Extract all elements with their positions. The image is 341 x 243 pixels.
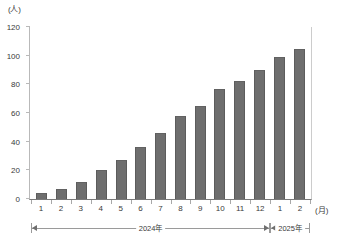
y-axis-tick-label: 100 (7, 51, 20, 60)
bar-cell (32, 27, 52, 199)
y-axis-tick-label: 60 (11, 109, 20, 118)
bar (155, 133, 166, 199)
x-axis-tick-label: 11 (230, 204, 250, 216)
bar (135, 147, 146, 199)
span-arrow-right-icon (264, 225, 269, 231)
y-axis-tick-label: 120 (7, 23, 20, 32)
x-axis-tick-label: 9 (190, 204, 210, 216)
x-axis-tick-label: 12 (250, 204, 270, 216)
x-axis-tick-label: 7 (151, 204, 171, 216)
bar (116, 160, 127, 199)
year-span: 2024年 (31, 222, 270, 236)
bar-cell (52, 27, 72, 199)
bar (274, 57, 285, 199)
bar-cell (250, 27, 270, 199)
bar-cell (91, 27, 111, 199)
y-axis-tick-label: 0 (16, 195, 20, 204)
bar-cell (190, 27, 210, 199)
x-axis-unit-label: (月) (315, 204, 328, 215)
y-axis-tick-label: 80 (11, 80, 20, 89)
bar-cell (269, 27, 289, 199)
x-axis-tick-label: 2 (290, 204, 310, 216)
bar (96, 170, 107, 199)
bar (214, 89, 225, 199)
bar-cell (111, 27, 131, 199)
x-axis-tick-label: 8 (170, 204, 190, 216)
bar (234, 81, 245, 199)
span-label: 2025年 (275, 222, 305, 235)
span-arrow-left-icon (32, 225, 37, 231)
bar-cell (151, 27, 171, 199)
bar (294, 49, 305, 200)
x-axis-tick-label: 10 (210, 204, 230, 216)
plot-area: 020406080100120 (29, 27, 312, 200)
bar (254, 70, 265, 199)
year-span: 2025年 (270, 222, 310, 236)
x-axis-labels: 12345678910111212 (29, 204, 312, 216)
x-axis-tick-label: 1 (31, 204, 51, 216)
bar-cell (131, 27, 151, 199)
year-span-annotations: 2024年2025年 (29, 222, 312, 238)
span-label: 2024年 (136, 222, 166, 235)
x-axis-tick-label: 2 (51, 204, 71, 216)
y-axis-tick-label: 20 (11, 166, 20, 175)
bar-cell (170, 27, 190, 199)
bar (56, 189, 67, 199)
bar-cell (289, 27, 309, 199)
span-end-cap (309, 223, 310, 233)
y-axis-unit-label: (人) (8, 3, 21, 14)
x-axis-tick-label: 6 (131, 204, 151, 216)
y-axis-tick-label: 40 (11, 137, 20, 146)
bar-cell (210, 27, 230, 199)
bar (195, 106, 206, 199)
bar-chart: (人) 020406080100120 12345678910111212 (月… (0, 0, 341, 243)
bar (175, 116, 186, 199)
bar-cell (72, 27, 92, 199)
bar-cell (230, 27, 250, 199)
bar (76, 182, 87, 199)
x-axis-tick-label: 4 (91, 204, 111, 216)
x-axis-tick-label: 1 (270, 204, 290, 216)
bar (36, 193, 47, 199)
bars-container (30, 27, 311, 199)
x-axis-tick-label: 5 (111, 204, 131, 216)
x-axis-tick-label: 3 (71, 204, 91, 216)
